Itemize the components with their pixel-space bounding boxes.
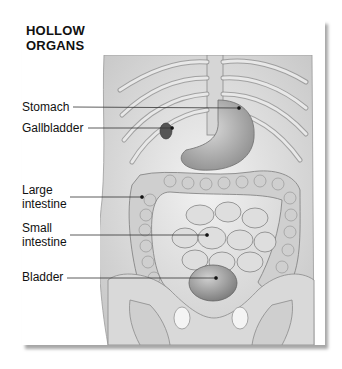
torso-group [99,55,314,345]
label-stomach: Stomach [22,100,69,114]
obturator-right [232,307,248,329]
small-intestine-organ [172,202,276,272]
label-bladder: Bladder [22,270,63,284]
gallbladder-organ [160,123,172,139]
obturator-left [174,307,190,329]
label-large-intestine: Large intestine [22,183,67,211]
label-small-intestine: Small intestine [22,221,67,249]
bladder-organ [189,265,237,301]
label-gallbladder: Gallbladder [22,121,83,135]
